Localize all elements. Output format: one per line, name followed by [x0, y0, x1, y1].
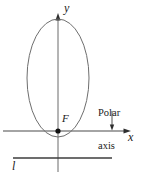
polar-axis-label-line2: axis: [98, 140, 120, 151]
focus-label: F: [62, 113, 69, 125]
figure-container: y x F l Polar axis: [0, 0, 141, 185]
polar-axis-label-line1: Polar: [98, 107, 120, 118]
polar-axis-label: Polar axis: [98, 85, 120, 173]
x-axis-label: x: [128, 131, 133, 144]
focus-point-marker: [55, 128, 60, 133]
directrix-label: l: [12, 160, 15, 173]
y-axis-label: y: [64, 2, 69, 15]
